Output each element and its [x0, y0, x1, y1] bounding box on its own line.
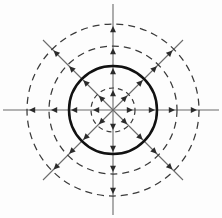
radial-diagram-figure — [0, 0, 222, 218]
radial-diagram-canvas — [0, 0, 222, 218]
